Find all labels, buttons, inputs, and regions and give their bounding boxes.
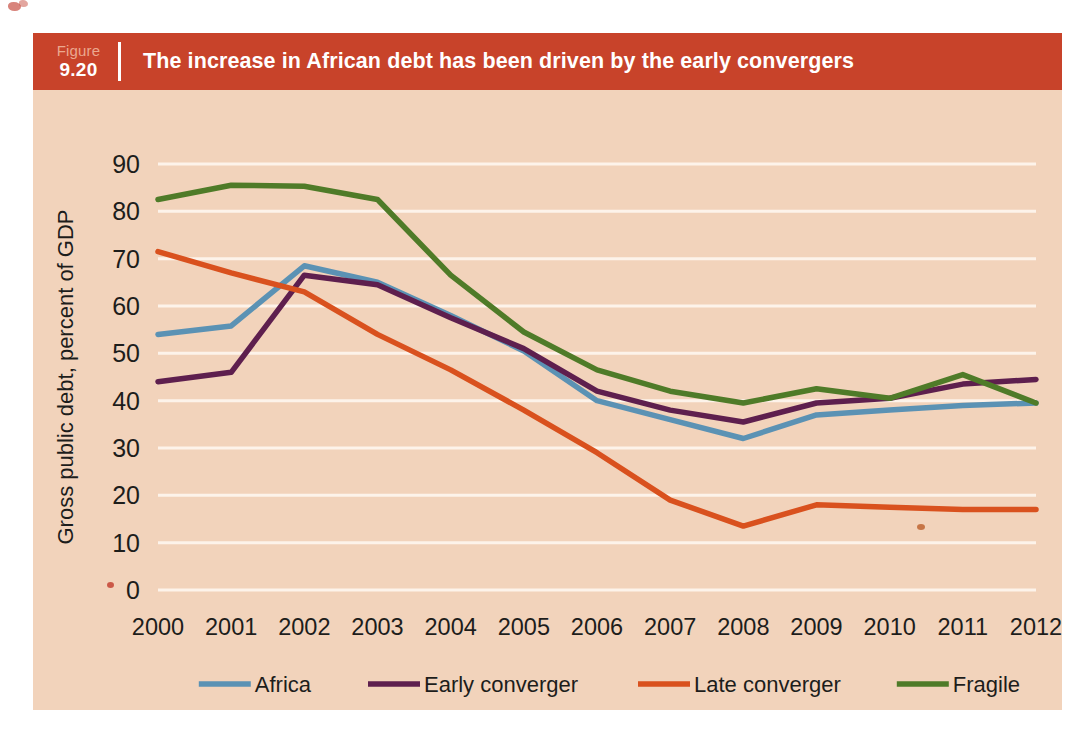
y-tick-label: 0 [126, 576, 140, 604]
figure-label-word: Figure [57, 43, 101, 59]
legend-label-africa: Africa [255, 672, 312, 697]
y-tick-label: 40 [112, 387, 140, 415]
plot-area: 0102030405060708090 Gross public debt, p… [33, 90, 1062, 710]
scan-artifact-speck-axis [107, 582, 114, 588]
x-tick-label: 2007 [644, 614, 696, 640]
x-tick-label: 2001 [205, 614, 257, 640]
x-tick-label: 2008 [717, 614, 769, 640]
source-note: Source:Centennial Group International 20… [85, 709, 380, 710]
y-tick-label: 60 [112, 292, 140, 320]
source-label: Source: [85, 709, 136, 710]
x-tick-label: 2012 [1010, 614, 1062, 640]
legend-label-early-converger: Early converger [424, 672, 578, 697]
x-tick-label: 2009 [790, 614, 842, 640]
y-tick-label: 70 [112, 245, 140, 273]
y-axis-title: Gross public debt, percent of GDP [53, 209, 78, 544]
x-tick-label: 2002 [278, 614, 330, 640]
legend-label-late-converger: Late converger [694, 672, 841, 697]
y-tick-label: 20 [112, 481, 140, 509]
scan-artifact-speck-plot [917, 524, 925, 530]
source-value: Centennial Group International 2013 [143, 709, 380, 710]
y-tick-label: 50 [112, 339, 140, 367]
figure-title: The increase in African debt has been dr… [121, 33, 1062, 90]
figure-container: Figure 9.20 The increase in African debt… [33, 33, 1062, 710]
figure-number-block: Figure 9.20 [33, 33, 118, 90]
y-tick-label: 10 [112, 529, 140, 557]
y-tick-labels-group: 0102030405060708090 [112, 150, 140, 604]
x-tick-label: 2005 [498, 614, 550, 640]
y-axis-title-group: Gross public debt, percent of GDP [53, 209, 78, 544]
series-lines-group [158, 185, 1036, 526]
x-tick-label: 2010 [864, 614, 916, 640]
x-tick-label: 2003 [351, 614, 403, 640]
x-tick-label: 2011 [938, 614, 989, 640]
y-tick-label: 90 [112, 150, 140, 178]
gridlines-group [158, 164, 1036, 590]
legend-label-fragile: Fragile [953, 672, 1020, 697]
x-tick-label: 2004 [425, 614, 477, 640]
legend-group: AfricaEarly convergerLate convergerFragi… [199, 672, 1020, 697]
scan-artifact-speck-secondary [19, 0, 28, 7]
x-tick-label: 2000 [132, 614, 184, 640]
line-chart-svg: 0102030405060708090 Gross public debt, p… [33, 90, 1062, 710]
figure-number: 9.20 [59, 59, 97, 80]
x-tick-label: 2006 [571, 614, 623, 640]
figure-header-band: Figure 9.20 The increase in African debt… [33, 33, 1062, 90]
y-tick-label: 30 [112, 434, 140, 462]
y-tick-label: 80 [112, 197, 140, 225]
x-tick-labels-group: 2000200120022003200420052006200720082009… [132, 614, 1062, 640]
